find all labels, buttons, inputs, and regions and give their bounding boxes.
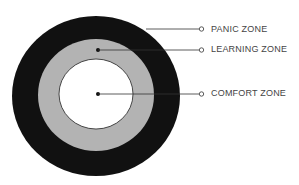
learning-leader-end-icon bbox=[199, 48, 203, 52]
panic-leader-end-icon bbox=[199, 27, 203, 31]
learning-zone-label: LEARNING ZONE bbox=[211, 44, 287, 54]
comfort-zone-label: COMFORT ZONE bbox=[211, 88, 286, 98]
panic-zone-label: PANIC ZONE bbox=[211, 24, 267, 34]
comfort-leader-end-icon bbox=[199, 92, 203, 96]
